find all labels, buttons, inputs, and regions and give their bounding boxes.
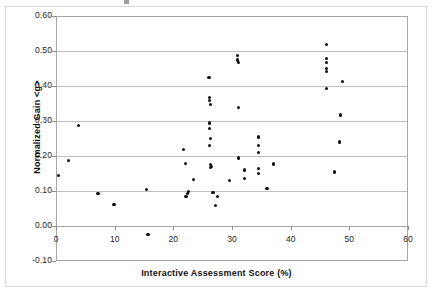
scatter-chart: -0.100.000.100.200.300.400.500.60 010203… bbox=[0, 0, 433, 293]
x-tick-mark bbox=[232, 226, 233, 230]
x-tick-label: 0 bbox=[41, 234, 71, 244]
x-tick-label: 20 bbox=[158, 234, 188, 244]
chart-screenshot: -0.100.000.100.200.300.400.500.60 010203… bbox=[0, 0, 433, 293]
x-tick-label: 30 bbox=[217, 234, 247, 244]
x-axis-title: Interactive Assessment Score (%) bbox=[0, 268, 433, 278]
x-tick-mark bbox=[56, 226, 57, 230]
x-axis: 0102030405060 bbox=[0, 16, 433, 276]
x-tick-label: 10 bbox=[100, 234, 130, 244]
x-tick-label: 50 bbox=[334, 234, 364, 244]
x-tick-mark bbox=[291, 226, 292, 230]
y-axis-title: Normalized Gain <g> bbox=[32, 52, 42, 202]
x-tick-mark bbox=[115, 226, 116, 230]
x-tick-mark bbox=[408, 226, 409, 230]
x-tick-mark bbox=[349, 226, 350, 230]
x-tick-label: 40 bbox=[276, 234, 306, 244]
x-tick-label: 60 bbox=[393, 234, 423, 244]
x-tick-mark bbox=[173, 226, 174, 230]
y-axis-title-holder: Normalized Gain <g> bbox=[14, 0, 30, 260]
